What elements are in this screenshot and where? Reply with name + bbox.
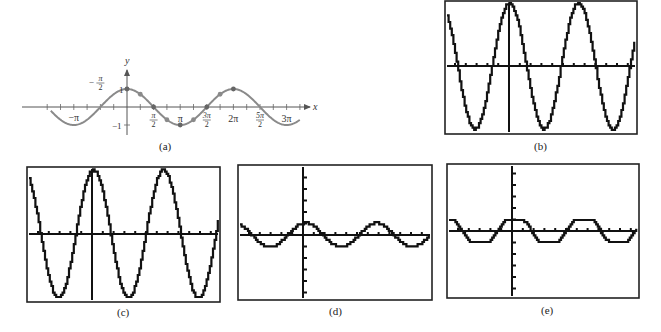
svg-text:2: 2 bbox=[258, 120, 262, 129]
x-tick-label: −π bbox=[68, 112, 79, 123]
panel-d-calculator-graph bbox=[238, 165, 432, 300]
x-tick-label: π−2 bbox=[89, 74, 105, 92]
y-tick-label-neg1: −1 bbox=[112, 121, 122, 131]
svg-text:π: π bbox=[152, 111, 157, 120]
highlighted-point bbox=[138, 92, 143, 97]
x-tick-label: 2π bbox=[228, 113, 238, 124]
highlighted-point bbox=[165, 117, 170, 122]
y-tick-label-1: 1 bbox=[119, 85, 124, 95]
x-tick-label: 3π2 bbox=[202, 111, 212, 129]
svg-text:5π: 5π bbox=[256, 111, 265, 120]
highlighted-point bbox=[125, 87, 130, 92]
svg-text:2: 2 bbox=[205, 120, 209, 129]
panel-label-a: (a) bbox=[159, 140, 172, 153]
highlighted-point bbox=[204, 105, 209, 110]
svg-text:π: π bbox=[98, 74, 103, 83]
panel-e-calculator-graph bbox=[447, 164, 639, 298]
highlighted-point bbox=[231, 87, 236, 92]
svg-text:2: 2 bbox=[152, 120, 156, 129]
y-axis-label: y bbox=[124, 55, 130, 66]
svg-text:−: − bbox=[89, 77, 94, 87]
figure: x y 1 −1 −ππ−2π2π3π22π5π23π (a) (b) (c) … bbox=[0, 0, 661, 332]
panel-c-calculator-graph bbox=[27, 167, 220, 302]
highlighted-point bbox=[218, 92, 223, 97]
x-axis-label: x bbox=[312, 101, 318, 112]
panel-label-e: (e) bbox=[541, 304, 554, 317]
panel-b-calculator-graph bbox=[445, 1, 637, 134]
svg-text:3π: 3π bbox=[202, 111, 212, 120]
panel-label-b: (b) bbox=[534, 140, 547, 153]
x-tick-label: 5π2 bbox=[256, 111, 265, 129]
x-tick-label: π2 bbox=[150, 111, 158, 129]
x-tick-labels: −ππ−2π2π3π22π5π23π bbox=[68, 74, 291, 129]
panel-label-c: (c) bbox=[117, 306, 130, 319]
svg-text:2: 2 bbox=[98, 83, 102, 92]
panel-a-cosine-graph: x y 1 −1 −ππ−2π2π3π22π5π23π (a) bbox=[22, 55, 318, 153]
highlighted-point bbox=[191, 117, 196, 122]
screen-frame bbox=[445, 1, 637, 134]
x-tick-label: π bbox=[178, 113, 183, 124]
x-tick-label: 3π bbox=[282, 113, 292, 124]
panel-label-d: (d) bbox=[329, 305, 342, 318]
figure-canvas: x y 1 −1 −ππ−2π2π3π22π5π23π (a) (b) (c) … bbox=[0, 0, 661, 332]
highlighted-point bbox=[151, 105, 156, 110]
